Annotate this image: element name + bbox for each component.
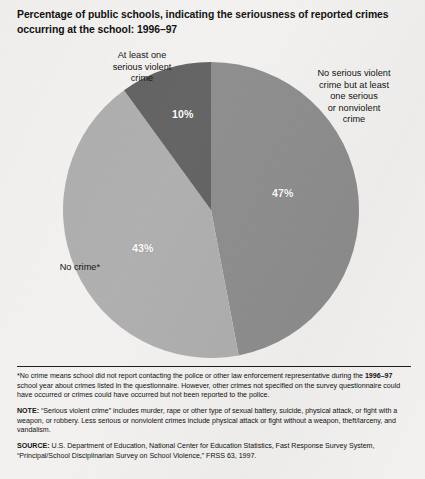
figure-panel: Percentage of public schools, indicating…	[0, 0, 425, 479]
pie-value-label-violent: 10%	[172, 108, 194, 120]
footnote-divider	[17, 366, 411, 367]
footnote-note: NOTE: “Serious violent crime” includes m…	[17, 407, 413, 436]
footnote-text-part2: school year about crimes listed in the q…	[17, 382, 400, 400]
source-label: SOURCE:	[17, 442, 50, 450]
source-body: U.S. Department of Education, National C…	[17, 442, 374, 460]
pie-callout-nocrime: No crime*	[20, 262, 100, 274]
footnote-source: SOURCE: U.S. Department of Education, Na…	[17, 442, 413, 461]
footnote-years-bold: 1996–97	[365, 372, 392, 380]
page-title: Percentage of public schools, indicating…	[17, 8, 411, 37]
pie-value-label-nocrime: 43%	[132, 242, 154, 254]
note-label: NOTE:	[17, 407, 39, 415]
pie-value-label-nonviolent: 47%	[272, 187, 294, 199]
footnote-text-part1: No crime means school did not report con…	[20, 372, 365, 380]
footnotes: *No crime means school did not report co…	[17, 372, 413, 468]
footnote-no-crime-definition: *No crime means school did not report co…	[17, 372, 413, 401]
pie-callout-nonviolent: No serious violent crime but at least on…	[292, 68, 416, 126]
pie-callout-violent: At least one serious violent crime	[88, 50, 196, 85]
note-body: “Serious violent crime” includes murder,…	[17, 407, 397, 434]
